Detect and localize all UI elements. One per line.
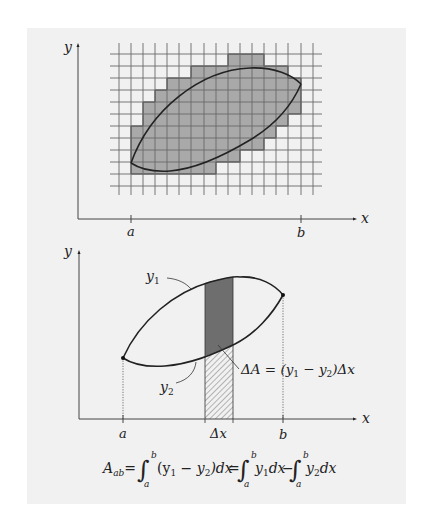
x-axis-arrow-top xyxy=(353,218,357,221)
integral-1-lower: a xyxy=(144,479,149,489)
area-formula: Aab= ∫ b a (y1 − y2)dx = ∫ b a y1dx − ∫ … xyxy=(101,450,337,489)
x-axis-label-top: x xyxy=(361,210,369,226)
integral-3-lower: a xyxy=(296,479,301,489)
formula-term3: y2dx xyxy=(305,460,337,478)
formula-lhs: Aab= xyxy=(101,460,136,478)
top-figure: y x a b xyxy=(63,39,369,240)
leader-y1 xyxy=(167,278,191,289)
integral-2-lower: a xyxy=(244,479,249,489)
tick-label-b-top: b xyxy=(297,225,305,240)
leader-y2 xyxy=(176,362,196,383)
integral-3-upper: b xyxy=(303,450,309,460)
x-axis-arrow-bottom xyxy=(353,418,357,421)
integral-1-upper: b xyxy=(151,450,157,460)
curve-label-y1: y1 xyxy=(145,268,160,286)
integral-2-upper: b xyxy=(251,450,257,460)
upper-curve-y1 xyxy=(123,277,283,358)
lower-curve-y2 xyxy=(123,295,283,366)
tick-label-dx: Δx xyxy=(209,426,227,441)
y-axis-label-top: y xyxy=(63,39,73,55)
diagram-canvas: y x a b y x a b Δx xyxy=(0,0,425,532)
endpoint-b xyxy=(281,293,285,297)
y-axis-arrow-top xyxy=(77,43,80,47)
endpoint-a xyxy=(121,356,125,360)
tick-label-a-bottom: a xyxy=(119,426,127,441)
delta-area-annotation: ΔA = (y1 − y2)Δx xyxy=(240,361,355,379)
area-strip xyxy=(205,277,233,356)
y-axis-arrow-bottom xyxy=(78,250,81,254)
curve-label-y2: y2 xyxy=(159,379,174,397)
tick-label-a-top: a xyxy=(127,224,135,239)
formula-term2: y1dx xyxy=(254,460,286,478)
bottom-figure: y x a b Δx y1 y2 ΔA = (y1 − y2)Δx xyxy=(63,243,370,442)
x-axis-label-bottom: x xyxy=(362,410,370,426)
tick-label-b-bottom: b xyxy=(279,427,287,442)
formula-term1: (y1 − y2)dx xyxy=(157,460,233,478)
y-axis-label-bottom: y xyxy=(63,243,73,259)
